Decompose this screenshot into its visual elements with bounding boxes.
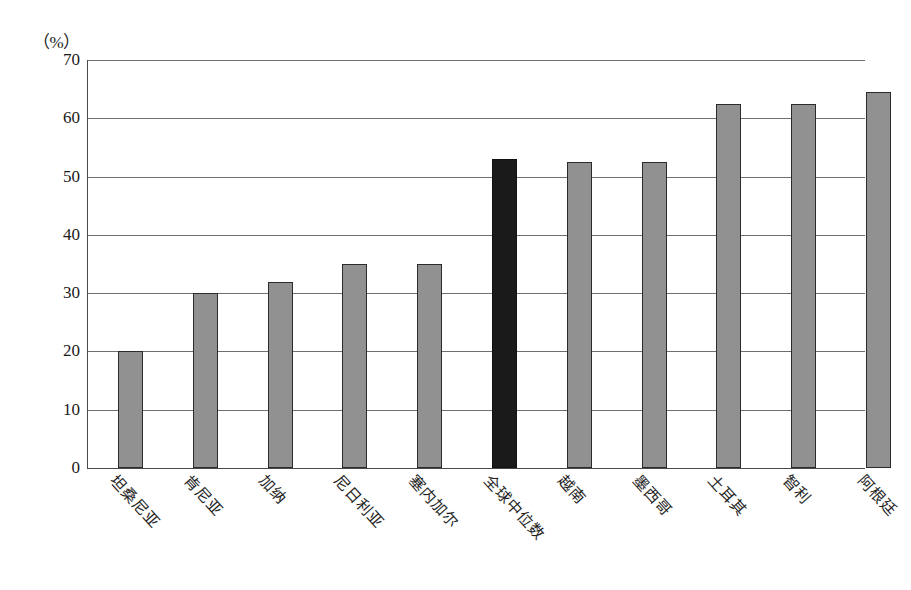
category-label-尼日利亚: 尼日利亚 — [331, 472, 387, 531]
bar-智利 — [791, 104, 816, 468]
y-axis-tick-labels: 706050403020100 — [8, 60, 80, 468]
bar-土耳其 — [716, 104, 741, 468]
category-label-土耳其: 土耳其 — [705, 472, 750, 519]
bar-尼日利亚 — [342, 264, 367, 468]
bar-墨西哥 — [642, 162, 667, 468]
bar-越南 — [567, 162, 592, 468]
category-label-全球中位数: 全球中位数 — [481, 472, 548, 544]
gridline-0 — [88, 468, 865, 469]
bar-chart: （%） 706050403020100 坦桑尼亚肯尼亚加纳尼日利亚塞内加尔全球中… — [0, 0, 911, 590]
bar-塞内加尔 — [417, 264, 442, 468]
category-label-阿根廷: 阿根廷 — [855, 472, 900, 519]
x-axis-category-labels: 坦桑尼亚肯尼亚加纳尼日利亚塞内加尔全球中位数越南墨西哥土耳其智利阿根廷 — [88, 472, 865, 582]
bar-阿根廷 — [866, 92, 891, 468]
y-tick-label: 0 — [20, 459, 80, 476]
category-label-塞内加尔: 塞内加尔 — [406, 472, 462, 531]
y-tick-label: 60 — [20, 109, 80, 126]
bar-坦桑尼亚 — [118, 351, 143, 468]
bar-肯尼亚 — [193, 293, 218, 468]
y-tick-label: 70 — [20, 51, 80, 68]
y-tick-label: 30 — [20, 284, 80, 301]
y-tick-label: 10 — [20, 401, 80, 418]
bar-全球中位数 — [492, 159, 517, 468]
y-tick-label: 20 — [20, 342, 80, 359]
bars-container — [88, 60, 865, 468]
category-label-智利: 智利 — [780, 472, 814, 507]
y-tick-label: 50 — [20, 168, 80, 185]
category-label-加纳: 加纳 — [256, 472, 290, 507]
category-label-越南: 越南 — [555, 472, 589, 507]
bar-加纳 — [268, 282, 293, 469]
y-tick-label: 40 — [20, 226, 80, 243]
category-label-肯尼亚: 肯尼亚 — [181, 472, 226, 519]
category-label-坦桑尼亚: 坦桑尼亚 — [107, 472, 163, 531]
category-label-墨西哥: 墨西哥 — [630, 472, 675, 519]
